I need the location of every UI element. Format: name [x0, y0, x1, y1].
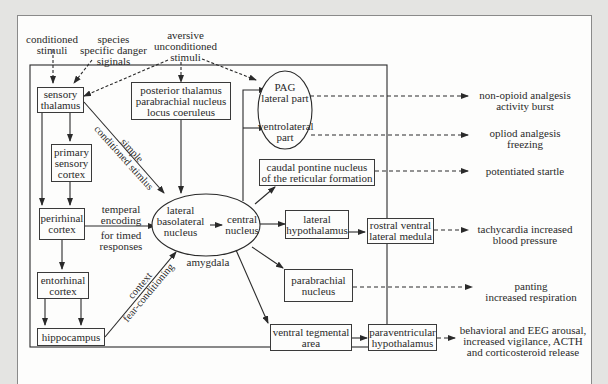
node-paraventricular[interactable]: paraventricular hypothalamus — [368, 324, 437, 351]
output-non-opioid: non-opioid analgesis activity burst — [470, 90, 580, 112]
output-arousal: behavioral and EEG arousal, increased vi… — [458, 325, 588, 358]
label-for-timed: for timed responses — [91, 230, 151, 252]
arrow-central-to-parabrachial — [252, 247, 283, 268]
node-caudal-pontine[interactable]: caudal pontine nucleus of the reticular … — [259, 159, 375, 186]
label-amygdala: amygdala — [183, 257, 233, 268]
output-opioid: opliod analgesis freezing — [470, 128, 580, 150]
node-lateral-basolateral: lateral basolateral nucleus — [153, 205, 208, 238]
node-perirhinal-cortex[interactable]: perirhinal cortex — [39, 208, 85, 240]
node-pag-ventrolateral: ventrolateral part — [258, 121, 312, 143]
node-entorhinal-cortex[interactable]: entorhinal cortex — [37, 272, 89, 299]
output-panting: panting increased respiration — [476, 281, 586, 303]
label-species-danger: species specific danger siginals — [80, 34, 147, 67]
node-central-nucleus: central nucleus — [222, 214, 262, 236]
node-posterior-thalamus[interactable]: posterior thalamus parabrachial nucleus … — [131, 82, 231, 120]
label-conditioned-stimuli: conditioned stimuli — [26, 34, 78, 56]
node-hippocampus[interactable]: hippocampus — [37, 328, 105, 346]
label-temperal-encoding: temperal encoding — [91, 204, 151, 226]
node-sensory-thalamus[interactable]: sensory thalamus — [37, 87, 84, 113]
node-primary-sensory-cortex[interactable]: primary sensory cortex — [51, 144, 92, 182]
node-ventral-tegmental[interactable]: ventral tegmental area — [270, 324, 352, 351]
output-startle: potentiated startle — [470, 166, 580, 177]
output-tachycardia: tachycardia increased blood pressure — [470, 224, 580, 246]
label-aversive-stimuli: aversive unconditioned stimuli — [154, 30, 217, 63]
node-lateral-hypothalamus[interactable]: lateral hypothalamus — [285, 210, 349, 239]
arrow-central-to-caudal — [255, 187, 275, 204]
arrow-central-to-ventral-tegmental — [236, 250, 268, 323]
node-parabrachial[interactable]: parabrachial nucleus — [284, 269, 353, 302]
node-rostral-ventral[interactable]: rostral ventral lateral medula — [367, 218, 434, 244]
node-pag-lateral: PAG lateral part — [258, 82, 312, 104]
